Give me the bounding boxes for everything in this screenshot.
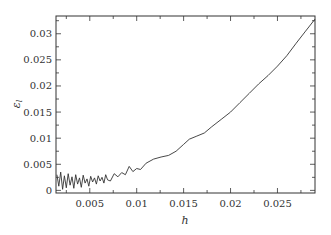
y-tick-label: 0.01 — [30, 133, 52, 144]
plot-frame — [56, 16, 315, 193]
y-axis: 00.0050.010.0150.020.0250.03 — [23, 21, 315, 196]
x-tick-label: 0.005 — [75, 198, 104, 209]
y-tick-label: 0.005 — [23, 159, 52, 170]
chart: 0.0050.010.0150.020.025 00.0050.010.0150… — [0, 0, 331, 235]
x-tick-label: 0.02 — [219, 198, 241, 209]
x-tick-label: 0.01 — [126, 198, 148, 209]
y-tick-label: 0.03 — [30, 28, 52, 39]
y-tick-label: 0.015 — [23, 107, 52, 118]
y-tick-label: 0 — [46, 185, 52, 196]
y-tick-label: 0.025 — [23, 54, 52, 65]
x-tick-label: 0.015 — [169, 198, 198, 209]
data-line — [57, 19, 315, 189]
x-axis: 0.0050.010.0150.020.025 — [66, 16, 301, 209]
x-tick-label: 0.025 — [263, 198, 292, 209]
y-axis-label: εl — [10, 99, 24, 108]
y-tick-label: 0.02 — [30, 80, 52, 91]
x-axis-label: h — [181, 214, 188, 227]
